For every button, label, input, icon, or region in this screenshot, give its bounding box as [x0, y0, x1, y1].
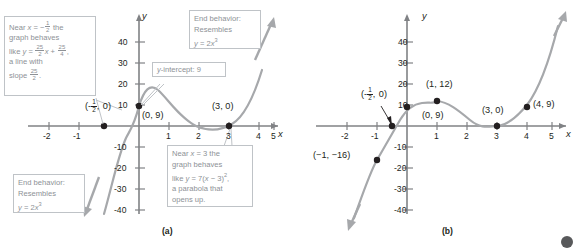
panel-b-xtick-3: 3 — [494, 131, 499, 141]
callout-line-2: graph behaves — [9, 33, 91, 44]
panel-a-xtick-2: 2 — [196, 131, 201, 141]
panel-a-xtick-4: 4 — [256, 131, 261, 141]
panel-a-xtick-5: 5 — [271, 131, 276, 141]
callout-line-5: opens up. — [172, 195, 248, 206]
panel-a-xtick-1: 1 — [166, 131, 171, 141]
panel-b-label-neg1-neg16: (−1, −16) — [313, 150, 350, 160]
fraction-one-half-note: 12 — [45, 20, 50, 33]
callout-line-3: y = 2x3 — [194, 35, 256, 49]
panel-b-y-axis-arrow — [404, 14, 410, 21]
panel-a-point-0-9 — [136, 103, 142, 109]
panel-b-label-3-0: (3, 0) — [482, 105, 503, 115]
panel-a-ytick--40: -40 — [114, 205, 126, 215]
panel-b-xtick-1: 1 — [434, 131, 439, 141]
page-corner-marker — [561, 236, 573, 248]
callout-line-2: graph behaves — [172, 160, 248, 171]
callout-line-4: a line with — [9, 57, 91, 68]
fraction-25-over-4: 254 — [58, 44, 67, 57]
panel-a-ytick--10: -10 — [114, 142, 126, 152]
panel-a-ytick-40: 40 — [118, 37, 128, 47]
callout-near-three: Near x = 3 the graph behaves like y = 7(… — [167, 145, 253, 207]
panel-b-xtick--2: -2 — [341, 131, 349, 141]
panel-a-ytick-10: 10 — [118, 100, 128, 110]
panel-b-graph — [288, 0, 577, 251]
panel-a-leader-lines — [96, 84, 232, 146]
callout-line-1: Near x = −12 the — [9, 20, 91, 33]
callout-line-4: a parabola that — [172, 184, 248, 195]
callout-line-1: End behavior: — [18, 178, 80, 189]
callout-line-2: Resembles — [18, 189, 80, 200]
panel-a-point-neg-half-0 — [101, 123, 107, 129]
panel-b-point-4-9 — [524, 104, 530, 110]
callout-line-1: Near x = 3 the — [172, 149, 248, 160]
panel-a-xtick--2: -2 — [43, 131, 51, 141]
callout-line-1: End behavior: — [194, 14, 256, 25]
panel-a-label-0-9: (0, 9) — [142, 110, 163, 120]
panel-b-ytick-20: 20 — [398, 79, 408, 89]
callout-end-behavior-top: End behavior: Resembles y = 2x3 — [189, 10, 261, 49]
panel-b-ytick--10: -10 — [394, 142, 406, 152]
panel-b-ytick-30: 30 — [398, 58, 408, 68]
panel-b-x-axis-label: x — [566, 128, 571, 139]
callout-line-3: y = 2x3 — [18, 199, 80, 213]
panel-a-ytick--30: -30 — [114, 184, 126, 194]
panel-a-x-axis-label: x — [278, 128, 283, 139]
panel-b-point-3-0 — [494, 123, 500, 129]
panel-a-point-3-0 — [226, 123, 232, 129]
panel-b-label-4-9: (4, 9) — [533, 99, 554, 109]
panel-b-label-1-12: (1, 12) — [426, 79, 453, 89]
callout-line-5: slope 252. — [9, 68, 91, 81]
panel-b-ytick-10: 10 — [398, 100, 408, 110]
callout-end-behavior-bottom: End behavior: Resembles y = 2x3 — [13, 174, 85, 213]
panel-b-xtick-4: 4 — [524, 131, 529, 141]
fraction-slope-25-over-2: 252 — [30, 68, 39, 81]
panel-a-ytick-20: 20 — [118, 79, 128, 89]
fraction-25-over-2: 252 — [35, 44, 44, 57]
panel-b-ytick--40: -40 — [394, 205, 406, 215]
panel-a-ytick--20: -20 — [114, 163, 126, 173]
panel-b-xtick-2: 2 — [464, 131, 469, 141]
panel-b-x-axis-arrow — [559, 123, 566, 129]
panel-b-label-neg-half-0: (-12, 0) — [361, 87, 387, 101]
panel-a-label-3-0: (3, 0) — [212, 101, 233, 111]
panel-b-label-0-9: (0, 9) — [422, 110, 443, 120]
panel-b-ytick-40: 40 — [398, 37, 408, 47]
callout-line-2: Resembles — [194, 25, 256, 36]
panel-b-y-axis-label: y — [422, 10, 427, 21]
panel-b-point-1-12 — [434, 98, 440, 104]
callout-line-3: like y = 252x + 254, — [9, 44, 91, 57]
callout-near-negative-half: Near x = −12 the graph behaves like y = … — [4, 16, 96, 96]
callout-line-3: like y = 7(x − 3)2, — [172, 170, 248, 184]
panel-b-xtick-5: 5 — [549, 131, 554, 141]
panel-a-xtick-3: 3 — [226, 131, 231, 141]
panel-b-end-behavior-arrows — [347, 11, 567, 231]
panel-b-point-neg1-neg16 — [374, 157, 380, 163]
figure-two-panel-polynomial-graphs: -2 -1 1 2 3 4 5 40 30 20 10 -10 -20 -30 … — [0, 0, 577, 251]
panel-a-label-neg-half-0: (-12, 0) — [85, 99, 111, 113]
panel-b-ytick--20: -20 — [394, 163, 406, 173]
panel-a-y-axis-label: y — [142, 10, 147, 21]
panel-a-caption: (a) — [162, 226, 173, 236]
panel-a-ytick-30: 30 — [118, 58, 128, 68]
panel-b-ytick--30: -30 — [394, 184, 406, 194]
panel-b-xtick--1: -1 — [371, 131, 379, 141]
panel-b-caption: (b) — [442, 226, 453, 236]
callout-y-intercept: y-intercept: 9 — [152, 62, 226, 77]
panel-a-xtick--1: -1 — [73, 131, 81, 141]
